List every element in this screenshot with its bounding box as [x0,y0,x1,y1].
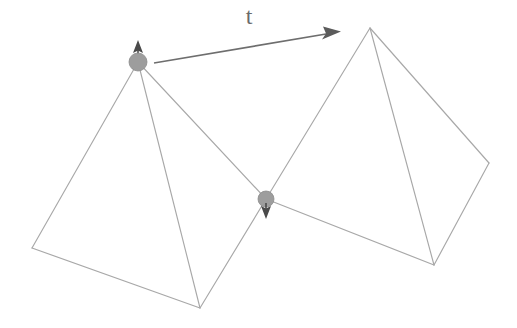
shared-node-group [258,191,274,219]
translation-vector-label: t [246,3,253,29]
edge-left-apex-to-shared-node [138,62,266,199]
edge-shared-node-to-right-bottom-corner [266,199,434,265]
edge-left-apex-to-bottom-corner [138,62,200,308]
edge-right-far-corner-to-bottom-corner [434,163,489,265]
edge-left-bottom-corner-to-shared-node [200,199,266,308]
figure-canvas: t [0,0,517,328]
tetrahedra-diagram: t [0,0,517,328]
left-apex-node-group [129,40,147,71]
edge-left-apex-to-far-corner [32,62,138,248]
edge-right-apex-to-shared-node [266,28,370,199]
left-apex-node [129,53,147,71]
translation-vector-shaft [154,33,332,63]
left-tetrahedron [32,62,266,308]
translation-vector-group: t [154,3,341,64]
edge-left-far-corner-to-bottom-corner [32,248,200,308]
right-tetrahedron [266,28,489,265]
translation-vector-arrowhead [322,27,341,40]
